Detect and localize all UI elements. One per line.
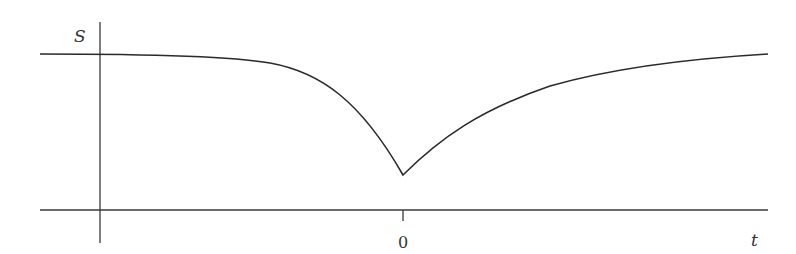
s-curve (40, 54, 768, 175)
x-axis-label: t (751, 230, 758, 250)
y-axis-label: S (74, 26, 86, 46)
origin-tick-label: 0 (398, 233, 408, 252)
diagram-canvas: S t 0 (0, 0, 796, 254)
